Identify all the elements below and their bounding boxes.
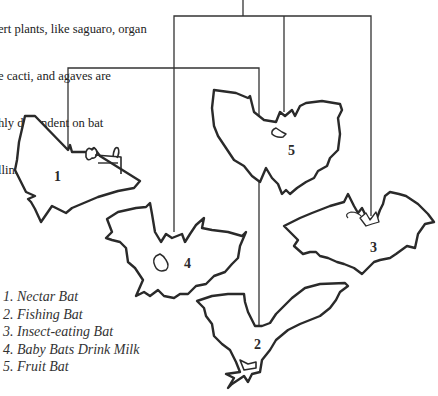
bat-number-2: 2 [254,337,261,352]
fishing-bat-icon [197,283,348,388]
bat-number-5: 5 [288,143,295,158]
fruit-bat-icon [212,90,342,194]
bat-legend: 1. Nectar Bat 2. Fishing Bat 3. Insect-e… [3,288,139,376]
nectar-bat-icon [15,116,140,222]
bat-number-3: 3 [370,240,377,255]
bat-number-4: 4 [184,256,191,271]
legend-item-nectar-bat: 1. Nectar Bat [3,288,139,306]
bat-number-1: 1 [54,169,61,184]
legend-item-fishing-bat: 2. Fishing Bat [3,306,139,324]
legend-item-baby-bats: 4. Baby Bats Drink Milk [3,341,139,359]
legend-item-insect-eating-bat: 3. Insect-eating Bat [3,323,139,341]
baby-bats-drink-milk-bat-icon [106,203,246,298]
insect-eating-bat-icon [284,192,434,274]
legend-item-fruit-bat: 5. Fruit Bat [3,358,139,376]
